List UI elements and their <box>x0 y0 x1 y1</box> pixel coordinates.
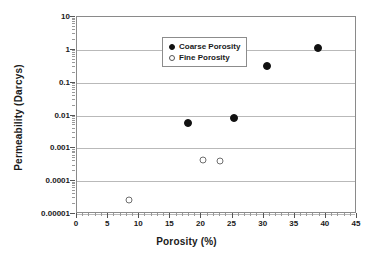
x-tick-major <box>232 213 233 218</box>
y-tick-label: 0.00001 <box>41 209 70 218</box>
y-tick-minor <box>72 149 75 150</box>
y-tick-minor <box>72 197 75 198</box>
x-tick-minor <box>269 213 270 216</box>
x-tick-minor <box>238 213 239 216</box>
x-tick-minor <box>132 213 133 216</box>
y-tick-minor <box>72 155 75 156</box>
y-tick-label: 0.01 <box>54 110 70 119</box>
x-tick-label: 0 <box>74 219 78 228</box>
y-tick-minor <box>72 26 75 27</box>
x-tick-minor <box>319 213 320 216</box>
x-tick-minor <box>163 213 164 216</box>
x-tick-major <box>356 213 357 218</box>
y-tick-minor <box>72 128 75 129</box>
y-tick-minor <box>72 116 75 117</box>
x-tick-minor <box>219 213 220 216</box>
y-tick-minor <box>72 59 75 60</box>
x-tick-major <box>76 213 77 218</box>
y-tick-minor <box>72 170 75 171</box>
y-axis-tick-labels: 1010.10.010.0010.00010.00001 <box>0 0 74 263</box>
y-tick-minor <box>72 137 75 138</box>
x-tick-minor <box>182 213 183 216</box>
x-tick-major <box>263 213 264 218</box>
y-tick-minor <box>72 185 75 186</box>
x-tick-minor <box>337 213 338 216</box>
y-tick-minor <box>72 72 75 73</box>
x-tick-minor <box>157 213 158 216</box>
x-tick-label: 5 <box>105 219 109 228</box>
gridline <box>77 116 355 117</box>
x-tick-minor <box>188 213 189 216</box>
y-tick-minor <box>72 99 75 100</box>
x-tick-label: 45 <box>352 219 361 228</box>
x-tick-minor <box>256 213 257 216</box>
y-tick-minor <box>72 85 75 86</box>
filled-circle-icon <box>167 44 176 50</box>
x-tick-minor <box>344 213 345 216</box>
y-tick-minor <box>72 160 75 161</box>
legend-item-fine: Fine Porosity <box>167 52 240 63</box>
x-tick-major <box>138 213 139 218</box>
y-tick-minor <box>72 66 75 67</box>
y-tick-minor <box>72 62 75 63</box>
y-tick-minor <box>72 87 75 88</box>
gridline <box>77 181 355 182</box>
y-tick-minor <box>72 118 75 119</box>
y-tick-minor <box>72 152 75 153</box>
x-tick-major <box>294 213 295 218</box>
y-tick-label: 0.001 <box>50 143 70 152</box>
data-point <box>200 157 207 164</box>
x-tick-minor <box>120 213 121 216</box>
y-tick-minor <box>72 182 75 183</box>
y-tick-minor <box>72 92 75 93</box>
x-tick-label: 25 <box>227 219 236 228</box>
x-tick-minor <box>207 213 208 216</box>
x-tick-minor <box>151 213 152 216</box>
y-tick-minor <box>72 50 75 51</box>
y-tick-minor <box>72 151 75 152</box>
x-tick-minor <box>213 213 214 216</box>
x-tick-major <box>169 213 170 218</box>
y-tick-minor <box>72 132 75 133</box>
y-tick-minor <box>72 165 75 166</box>
y-tick-label: 0.1 <box>59 77 70 86</box>
permeability-porosity-chart: Permeability (Darcys) 1010.10.010.0010.0… <box>0 0 373 263</box>
x-tick-minor <box>331 213 332 216</box>
legend-label-fine: Fine Porosity <box>179 53 230 62</box>
y-tick-minor <box>72 56 75 57</box>
x-tick-minor <box>126 213 127 216</box>
y-tick-minor <box>72 187 75 188</box>
data-point <box>217 157 224 164</box>
y-tick-minor <box>72 19 75 20</box>
x-tick-minor <box>95 213 96 216</box>
y-tick-minor <box>72 203 75 204</box>
y-tick-minor <box>72 54 75 55</box>
x-tick-label: 35 <box>289 219 298 228</box>
y-tick-minor <box>72 183 75 184</box>
y-tick-minor <box>72 120 75 121</box>
x-tick-minor <box>244 213 245 216</box>
y-tick-minor <box>72 83 75 84</box>
x-tick-minor <box>250 213 251 216</box>
y-tick-minor <box>72 193 75 194</box>
gridline <box>77 148 355 149</box>
plot-area: Coarse Porosity Fine Porosity <box>76 16 356 213</box>
y-tick-major <box>70 213 75 214</box>
y-tick-minor <box>72 52 75 53</box>
x-tick-minor <box>312 213 313 216</box>
y-tick-minor <box>72 33 75 34</box>
x-tick-label: 20 <box>196 219 205 228</box>
x-tick-minor <box>306 213 307 216</box>
y-tick-minor <box>72 18 75 19</box>
x-tick-minor <box>176 213 177 216</box>
y-tick-minor <box>72 190 75 191</box>
y-tick-minor <box>72 157 75 158</box>
gridline <box>77 83 355 84</box>
data-point <box>230 114 238 122</box>
y-tick-minor <box>72 122 75 123</box>
legend-item-coarse: Coarse Porosity <box>167 41 240 52</box>
x-tick-minor <box>350 213 351 216</box>
x-tick-minor <box>288 213 289 216</box>
x-tick-minor <box>225 213 226 216</box>
x-tick-label: 40 <box>320 219 329 228</box>
